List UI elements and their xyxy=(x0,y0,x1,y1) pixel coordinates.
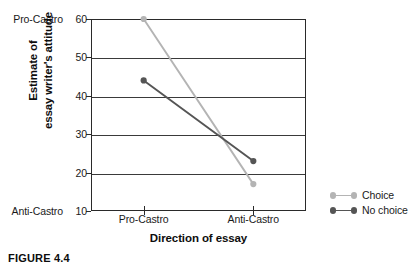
legend-label: Choice xyxy=(362,190,394,201)
y-tick-mark-10 xyxy=(86,211,91,212)
legend-item-no-choice: No choice xyxy=(330,203,418,218)
y-tick-label-20: 20 xyxy=(27,168,87,179)
y-tick-label-10: 10 xyxy=(27,206,87,217)
figure-4-4: Pro-Castro Anti-Castro Estimate of essay… xyxy=(0,0,419,268)
x-axis-title: Direction of essay xyxy=(91,232,306,244)
x-tick-label-0: Pro-Castro xyxy=(89,214,199,225)
y-tick-label-40: 40 xyxy=(27,91,87,102)
y-tick-label-50: 50 xyxy=(27,52,87,63)
legend-label: No choice xyxy=(362,205,408,216)
gridline-30 xyxy=(92,135,305,136)
figure-caption: FIGURE 4.4 xyxy=(8,252,70,264)
gridline-20 xyxy=(92,174,305,175)
gridline-40 xyxy=(92,97,305,98)
legend-item-choice: Choice xyxy=(330,188,418,203)
y-tick-label-30: 30 xyxy=(27,129,87,140)
legend: ChoiceNo choice xyxy=(330,188,418,218)
legend-swatch-icon xyxy=(330,205,357,216)
legend-swatch-icon xyxy=(330,190,357,201)
gridline-50 xyxy=(92,58,305,59)
y-tick-label-60: 60 xyxy=(27,14,87,25)
plot-area xyxy=(91,19,306,211)
x-tick-label-1: Anti-Castro xyxy=(198,214,308,225)
